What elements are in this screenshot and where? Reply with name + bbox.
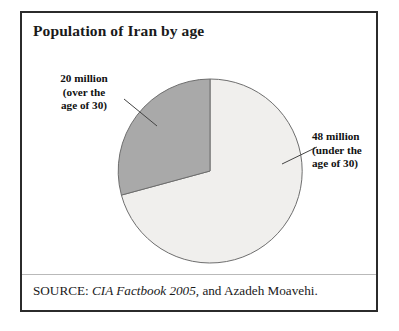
pie-label-under-30-line3: age of 30)	[312, 157, 392, 171]
source-caption: SOURCE: CIA Factbook 2005, and Azadeh Mo…	[33, 283, 318, 299]
source-title: CIA Factbook 2005	[92, 283, 196, 298]
pie-label-over-30-line1: 20 million	[48, 72, 120, 86]
page-title: Population of Iran by age	[33, 22, 204, 40]
source-divider	[22, 274, 376, 275]
source-prefix: SOURCE:	[33, 283, 89, 298]
pie-label-over-30: 20 million (over the age of 30)	[48, 72, 120, 113]
pie-label-under-30: 48 million (under the age of 30)	[312, 130, 392, 171]
source-suffix: , and Azadeh Moavehi.	[196, 283, 318, 298]
pie-label-under-30-line1: 48 million	[312, 130, 392, 144]
pie-label-over-30-line3: age of 30)	[48, 99, 120, 113]
pie-label-under-30-line2: (under the	[312, 144, 392, 158]
figure-page: Population of Iran by age 20 million (ov…	[0, 0, 399, 331]
pie-label-over-30-line2: (over the	[48, 86, 120, 100]
